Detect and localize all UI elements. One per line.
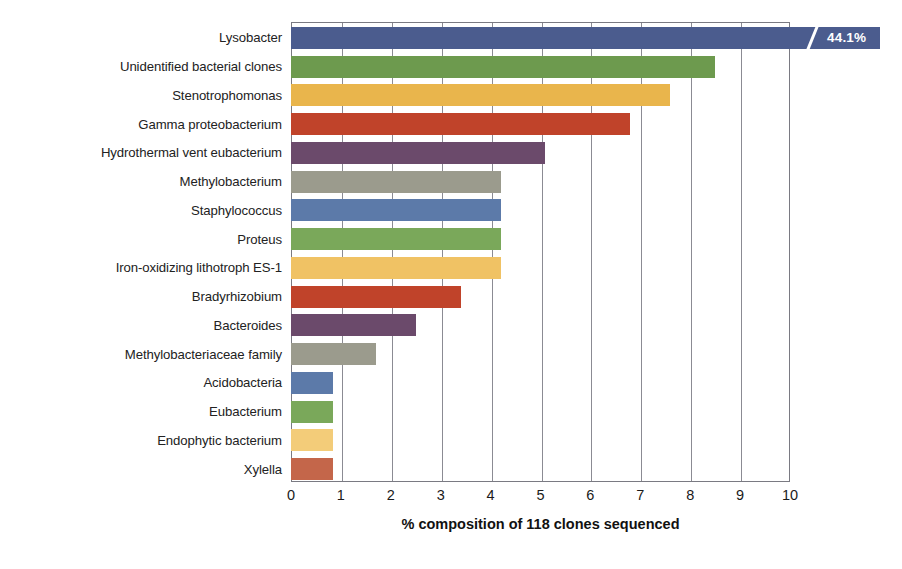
category-label: Xylella [0, 463, 282, 476]
bar-acidobacteria [291, 372, 333, 394]
category-label: Bradyrhizobium [0, 290, 282, 303]
bar-staphylococcus [291, 199, 501, 221]
x-tick-9: 9 [736, 487, 744, 503]
category-label: Endophytic bacterium [0, 434, 282, 447]
x-axis-title: % composition of 118 clones sequenced [291, 516, 790, 532]
x-tick-3: 3 [437, 487, 445, 503]
bar-iron-oxidizing-lithotroph-es-1 [291, 257, 501, 279]
x-tick-8: 8 [686, 487, 694, 503]
category-label: Staphylococcus [0, 204, 282, 217]
bar-methylobacteriaceae-family [291, 343, 376, 365]
category-label: Gamma proteobacterium [0, 118, 282, 131]
bar-gamma-proteobacterium [291, 113, 630, 135]
x-tick-10: 10 [782, 487, 798, 503]
category-label: Methylobacteriaceae family [0, 348, 282, 361]
bar-xylella [291, 458, 333, 480]
category-label: Stenotrophomonas [0, 89, 282, 102]
x-tick-6: 6 [586, 487, 594, 503]
bar-eubacterium [291, 401, 333, 423]
bar-methylobacterium [291, 171, 501, 193]
bar-proteus [291, 228, 501, 250]
x-tick-4: 4 [487, 487, 495, 503]
bar-bacteroides [291, 314, 416, 336]
x-tick-1: 1 [337, 487, 345, 503]
x-axis-tick-labels: 012345678910 [291, 487, 790, 509]
bar-unidentified-bacterial-clones [291, 56, 715, 78]
x-tick-5: 5 [536, 487, 544, 503]
bar-endophytic-bacterium [291, 429, 333, 451]
x-tick-7: 7 [636, 487, 644, 503]
category-label: Unidentified bacterial clones [0, 60, 282, 73]
category-label: Acidobacteria [0, 376, 282, 389]
axis-break-mark [805, 26, 820, 50]
bar-value-label: 44.1% [827, 27, 866, 49]
category-label: Lysobacter [0, 31, 282, 44]
bar-chart: LysobacterUnidentified bacterial clonesS… [0, 0, 902, 569]
bar-bradyrhizobium [291, 286, 461, 308]
bars-layer: 44.1% [291, 22, 902, 482]
x-tick-2: 2 [387, 487, 395, 503]
category-label: Hydrothermal vent eubacterium [0, 146, 282, 159]
bar-lysobacter [291, 27, 880, 49]
category-label: Iron-oxidizing lithotroph ES-1 [0, 261, 282, 274]
bar-hydrothermal-vent-eubacterium [291, 142, 545, 164]
category-label: Bacteroides [0, 319, 282, 332]
category-label: Eubacterium [0, 405, 282, 418]
x-tick-0: 0 [287, 487, 295, 503]
category-label: Proteus [0, 233, 282, 246]
category-axis-labels: LysobacterUnidentified bacterial clonesS… [0, 22, 282, 482]
category-label: Methylobacterium [0, 175, 282, 188]
bar-stenotrophomonas [291, 84, 670, 106]
